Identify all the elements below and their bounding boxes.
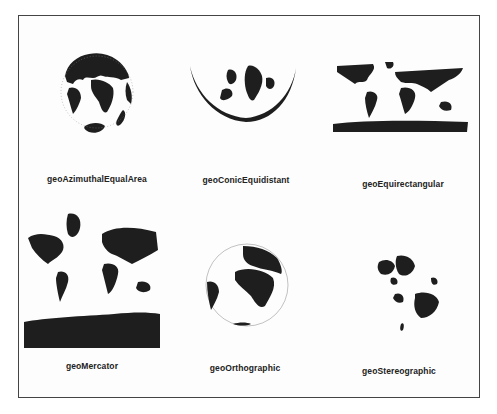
label-mercator: geoMercator: [66, 361, 118, 371]
label-orthographic: geoOrthographic: [210, 363, 280, 373]
globe-stereographic-icon: [375, 252, 447, 334]
map-orthographic: [203, 240, 291, 330]
label-conic-equidistant: geoConicEquidistant: [203, 175, 290, 185]
map-equirectangular: [333, 62, 468, 137]
globe-conic-icon: [188, 64, 298, 126]
globe-azimuthal-icon: [55, 48, 140, 138]
map-stereographic: [375, 252, 447, 334]
map-mercator: [24, 212, 160, 350]
label-stereographic: geoStereographic: [362, 366, 436, 376]
label-equirectangular: geoEquirectangular: [362, 179, 444, 189]
world-map-mercator-icon: [24, 212, 160, 350]
world-map-equirect-icon: [333, 62, 468, 137]
label-azimuthal-equal-area: geoAzimuthalEqualArea: [47, 174, 147, 184]
globe-orthographic-icon: [203, 240, 291, 330]
map-conic-equidistant: [188, 64, 298, 126]
map-azimuthal-equal-area: [55, 48, 140, 138]
